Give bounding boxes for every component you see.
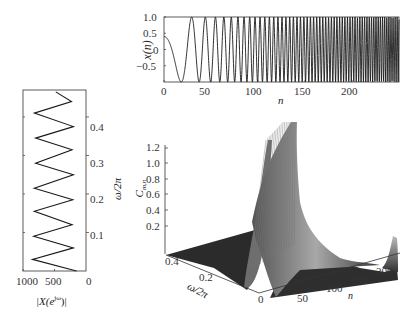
surf-ntick-50: 50 <box>297 293 308 304</box>
left-ytick-03: 0.3 <box>90 158 104 169</box>
top-xtick-5: 200 <box>341 86 358 97</box>
spectrum-axes-box <box>23 90 86 271</box>
top-xtick-2: 50 <box>199 86 210 97</box>
left-xtick-500: 500 <box>45 276 62 287</box>
surf-wtick-0: 0 <box>258 294 264 305</box>
surf-ntick-200: 200 <box>376 266 393 277</box>
surf-ztick-10: 1.0 <box>146 158 160 169</box>
top-ytick-2: 0.5 <box>143 28 157 39</box>
surf-ztick-12: 1.2 <box>146 142 160 153</box>
top-xtick-4: 150 <box>294 86 311 97</box>
time-signal-xlabel: n <box>278 94 284 106</box>
top-ytick-1: 1.0 <box>143 12 157 23</box>
spectrum-ylabel: ω/2π <box>111 178 123 200</box>
spectrum-xlabel-end: )| <box>61 295 67 307</box>
left-xtick-1000: 1000 <box>16 276 38 287</box>
surf-wtick-02: 0.2 <box>199 272 213 283</box>
spectrum-line <box>33 92 77 271</box>
left-ytick-04: 0.4 <box>90 122 104 133</box>
time-signal-ylabel: x(n) <box>141 40 153 59</box>
surface-zlabel-main: C <box>133 190 145 197</box>
surf-ztick-02: 0.2 <box>146 221 160 232</box>
left-xtick-0: 0 <box>86 276 92 287</box>
surf-ztick-04: 0.4 <box>146 205 160 216</box>
top-xtick-1: 0 <box>161 86 167 97</box>
time-signal-plot <box>164 17 399 82</box>
spectrum-xlabel: |X(ejω)| <box>36 292 67 307</box>
left-ytick-02: 0.2 <box>90 194 104 205</box>
surf-wtick-04: 0.4 <box>165 256 179 267</box>
top-xtick-3: 100 <box>245 86 262 97</box>
chirp-line <box>164 17 399 82</box>
left-ytick-01: 0.1 <box>90 230 104 241</box>
spectrum-plot <box>23 90 89 271</box>
top-ytick-3: 0 <box>153 45 159 56</box>
top-ytick-4: −0.5 <box>136 61 156 72</box>
spectrum-xlabel-main: |X(e <box>36 295 54 307</box>
figure-canvas <box>0 0 416 317</box>
surf-ntick-100: 100 <box>326 283 343 294</box>
surface-zlabel: Cm,n <box>133 180 150 198</box>
surface-zlabel-sub: m,n <box>140 180 148 190</box>
spectrum-ticks <box>23 117 89 271</box>
surface-xlabel: n <box>348 290 353 302</box>
surf-ntick-150: 150 <box>351 275 368 286</box>
